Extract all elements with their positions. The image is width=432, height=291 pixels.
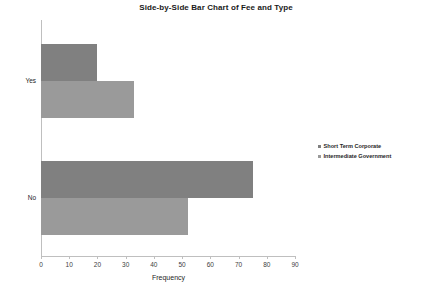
- x-axis-tick: [154, 256, 155, 259]
- x-axis-line: [41, 256, 296, 257]
- x-axis-tick: [126, 256, 127, 259]
- legend-item-label: Intermediate Government: [324, 153, 392, 160]
- y-axis-category-label: Yes: [6, 77, 36, 84]
- bar-chart: Side-by-Side Bar Chart of Fee and Type 0…: [0, 0, 432, 291]
- x-axis-tick-label: 60: [200, 261, 220, 268]
- legend-swatch-icon: [318, 145, 321, 148]
- x-axis-tick-label: 10: [59, 261, 79, 268]
- chart-legend: Short Term Corporate Intermediate Govern…: [318, 141, 391, 161]
- x-axis-tick-label: 80: [257, 261, 277, 268]
- bar: [41, 198, 188, 235]
- chart-title: Side-by-Side Bar Chart of Fee and Type: [0, 3, 432, 12]
- x-axis-tick: [210, 256, 211, 259]
- x-axis-tick-label: 50: [172, 261, 192, 268]
- x-axis-tick-label: 30: [116, 261, 136, 268]
- x-axis-tick-label: 90: [285, 261, 305, 268]
- x-axis-tick: [267, 256, 268, 259]
- bar: [41, 161, 253, 198]
- legend-item[interactable]: Intermediate Government: [318, 151, 391, 161]
- x-axis-tick-label: 70: [229, 261, 249, 268]
- bar: [41, 44, 97, 81]
- x-axis-tick-label: 40: [144, 261, 164, 268]
- plot-area: [41, 20, 295, 256]
- x-axis-tick-label: 20: [87, 261, 107, 268]
- x-axis-title: Frequency: [41, 274, 296, 281]
- x-axis-tick: [295, 256, 296, 259]
- x-axis-tick: [41, 256, 42, 259]
- x-axis-tick: [182, 256, 183, 259]
- bar: [41, 81, 134, 118]
- y-axis-category-label: No: [6, 194, 36, 201]
- legend-item-label: Short Term Corporate: [324, 143, 382, 150]
- legend-swatch-icon: [318, 155, 321, 158]
- x-axis-tick: [97, 256, 98, 259]
- x-axis-tick-label: 0: [31, 261, 51, 268]
- x-axis-tick: [69, 256, 70, 259]
- legend-item[interactable]: Short Term Corporate: [318, 141, 391, 151]
- x-axis-tick: [239, 256, 240, 259]
